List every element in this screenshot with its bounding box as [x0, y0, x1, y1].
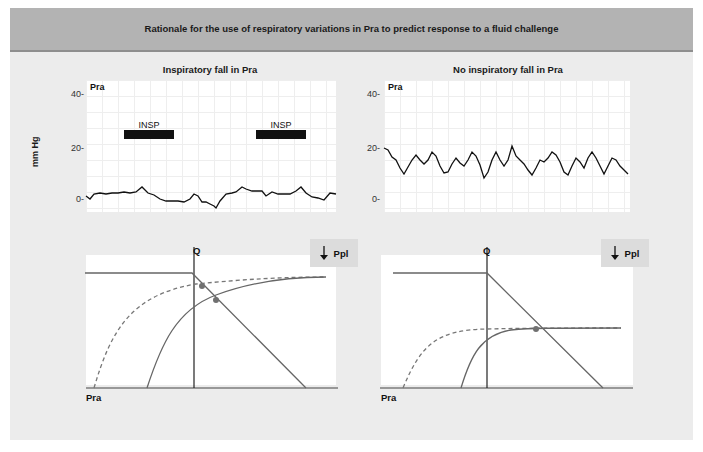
left-trace-plot: Pra INSP INSP: [86, 80, 336, 212]
ppl-label: Ppl: [334, 248, 349, 259]
pressure-trace: [384, 80, 630, 212]
header-bar: Rationale for the use of respiratory var…: [10, 8, 693, 52]
ppl-badge: Ppl: [310, 239, 358, 267]
y-tick-20: 20-: [60, 143, 84, 153]
y-tick-20: 20-: [356, 143, 380, 153]
right-trace-plot: Pra: [384, 80, 630, 212]
q-axis-label: Q: [483, 245, 490, 256]
y-axis-label: mm Hg: [30, 136, 40, 167]
y-tick-0: 0-: [60, 194, 84, 204]
cardiac-venous-return-curves: [86, 255, 336, 385]
right-panel-title: No inspiratory fall in Pra: [378, 64, 638, 75]
ppl-badge: Ppl: [601, 239, 649, 267]
pra-axis-label: Pra: [86, 392, 101, 403]
left-panel-title: Inspiratory fall in Pra: [80, 64, 340, 75]
pressure-trace: [86, 80, 336, 212]
y-tick-0: 0-: [356, 194, 380, 204]
y-tick-40: 40-: [356, 89, 380, 99]
q-axis-label: Q: [193, 245, 200, 256]
right-starling-diagram: [381, 255, 633, 385]
left-starling-diagram: [86, 255, 336, 385]
ppl-label: Ppl: [625, 248, 640, 259]
pra-axis-label: Pra: [381, 392, 396, 403]
down-arrow-icon: [320, 246, 328, 260]
y-tick-40: 40-: [60, 89, 84, 99]
down-arrow-icon: [611, 246, 619, 260]
cardiac-venous-return-curves: [381, 255, 633, 385]
figure-title: Rationale for the use of respiratory var…: [10, 23, 693, 34]
